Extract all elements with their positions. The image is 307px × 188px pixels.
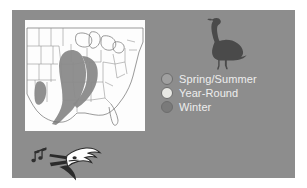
legend-swatch-year-round	[161, 87, 173, 99]
legend-swatch-winter	[161, 101, 173, 113]
singing-bird-head-icon	[26, 136, 106, 182]
legend: Spring/Summer Year-Round Winter	[161, 72, 291, 114]
goose-silhouette-icon	[195, 14, 253, 74]
legend-label-year-round: Year-Round	[179, 87, 238, 100]
bird-eye	[73, 156, 77, 159]
legend-item-winter[interactable]: Winter	[161, 100, 291, 114]
map-graphic	[25, 20, 145, 131]
range-map-figure: Spring/Summer Year-Round Winter	[0, 0, 307, 188]
bird-head	[66, 148, 100, 167]
legend-label-spring-summer: Spring/Summer	[179, 73, 257, 86]
figure-panel: Spring/Summer Year-Round Winter	[12, 10, 295, 178]
legend-item-year-round[interactable]: Year-Round	[161, 86, 291, 100]
range-map	[25, 20, 145, 131]
music-notes-icon	[31, 148, 46, 163]
legend-item-spring-summer[interactable]: Spring/Summer	[161, 72, 291, 86]
bird-breast	[59, 165, 76, 180]
legend-label-winter: Winter	[179, 101, 211, 114]
legend-swatch-spring-summer	[161, 73, 173, 85]
